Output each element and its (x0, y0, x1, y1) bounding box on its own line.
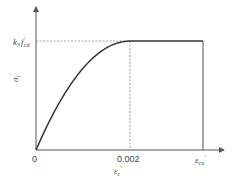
stress-strain-curve (36, 41, 130, 150)
y-axis-label: σc' (9, 73, 21, 82)
stress-strain-chart: k3f'cd σc' 0 0.002 εc' εcu' (0, 0, 233, 182)
svg-text:σc': σc' (9, 73, 21, 82)
x-tick-label-0002: 0.002 (117, 154, 140, 164)
x-tick-label-ultimate-strain: εcu' (195, 154, 206, 166)
x-axis-label: εc' (114, 165, 122, 177)
origin-label: 0 (32, 154, 37, 164)
y-tick-label-peak-stress: k3f'cd (13, 36, 30, 48)
